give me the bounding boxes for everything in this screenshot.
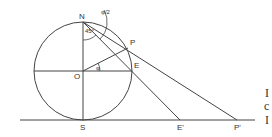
label-angle-45: 45°: [85, 28, 95, 34]
angle-arc-45: [83, 35, 96, 40]
cropped-text-1: I: [265, 86, 269, 100]
label-O: O: [74, 72, 80, 81]
cropped-text-2: c: [264, 99, 269, 113]
stereographic-projection-diagram: N P O E S E' P' 45° φ/2 φ I c I: [0, 0, 272, 137]
label-angle-phi-half: φ/2: [101, 9, 111, 15]
radius-OP: [83, 48, 128, 71]
label-E: E: [134, 61, 139, 70]
label-E-prime: E': [177, 123, 184, 132]
label-P-prime: P': [234, 123, 241, 132]
label-angle-phi: φ: [96, 65, 100, 71]
label-P: P: [130, 38, 135, 47]
label-N: N: [79, 12, 85, 21]
label-S: S: [80, 123, 85, 132]
cropped-text-3: I: [265, 113, 269, 127]
